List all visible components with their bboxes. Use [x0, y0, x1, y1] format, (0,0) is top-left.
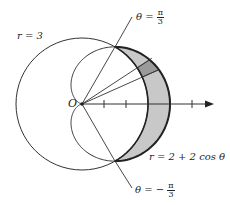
ray-theta-top-pointer [115, 17, 132, 47]
ray-line [82, 58, 152, 104]
polar-area-diagram: r = 3 θ = π3 O r = 2 + 2 cos θ θ = − π3 [0, 0, 230, 205]
origin-point [80, 102, 84, 106]
cardioid-label: r = 2 + 2 cos θ [149, 152, 225, 162]
theta-bottom-label: θ = − π3 [135, 182, 175, 199]
circle-label: r = 3 [17, 31, 43, 41]
axis-arrow-icon [205, 101, 214, 108]
theta-top-label: θ = π3 [136, 9, 164, 26]
ray-theta-bottom-pointer [115, 161, 132, 188]
origin-label: O [68, 98, 77, 109]
